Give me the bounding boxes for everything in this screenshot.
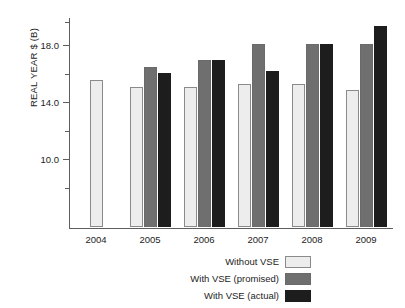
x-axis-tick-label: 2006 <box>193 234 214 245</box>
legend-item: Without VSE <box>96 253 311 270</box>
legend-label: Without VSE <box>225 256 279 267</box>
series-2-swatch <box>285 290 311 302</box>
x-axis-tick-label: 2005 <box>139 234 160 245</box>
bar <box>374 26 387 227</box>
x-axis-tick-label: 2004 <box>85 234 106 245</box>
y-axis-tick-label: 10.0 <box>41 154 60 165</box>
legend-label: With VSE (actual) <box>204 290 279 301</box>
y-axis-tick-labels: 10.014.018.0 <box>0 18 66 229</box>
series-0-swatch <box>285 256 311 268</box>
plot-area <box>69 18 393 228</box>
bar <box>360 44 373 227</box>
y-axis-tick-label: 18.0 <box>41 40 60 51</box>
chart-legend: Without VSEWith VSE (promised)With VSE (… <box>96 253 311 304</box>
legend-item: With VSE (promised) <box>96 270 311 287</box>
bar-chart: REAL YEAR $ (B) 10.014.018.0 20042005200… <box>0 0 405 308</box>
bar <box>346 90 359 227</box>
y-axis-tick-label: 14.0 <box>41 97 60 108</box>
x-axis-tick-label: 2008 <box>301 234 322 245</box>
bar-group <box>69 17 393 227</box>
x-axis-line <box>69 228 393 229</box>
x-axis-tick-labels: 200420052006200720082009 <box>69 234 393 250</box>
series-1-swatch <box>285 273 311 285</box>
x-axis-tick-label: 2007 <box>247 234 268 245</box>
x-axis-tick-label: 2009 <box>355 234 376 245</box>
legend-label: With VSE (promised) <box>190 273 279 284</box>
legend-item: With VSE (actual) <box>96 287 311 304</box>
